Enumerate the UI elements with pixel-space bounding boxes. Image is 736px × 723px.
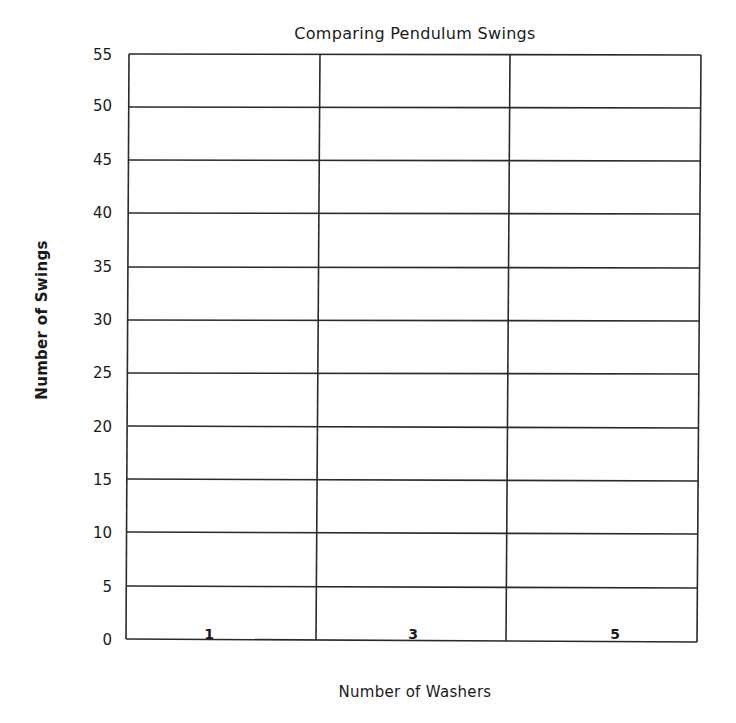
ytick-label: 40 — [72, 204, 112, 222]
ytick-label: 35 — [72, 258, 112, 276]
divider-2 — [506, 55, 510, 641]
gridline-35 — [128, 267, 700, 268]
ytick-label: 50 — [72, 97, 112, 115]
ytick-label: 30 — [72, 311, 112, 329]
gridline-20 — [128, 426, 699, 428]
divider-1 — [316, 54, 320, 640]
gridline-5 — [127, 586, 698, 588]
gridline-25 — [128, 373, 699, 374]
ytick-label: 45 — [72, 151, 112, 169]
ytick-label: 20 — [72, 418, 112, 436]
y-axis — [126, 54, 129, 639]
gridline-30 — [128, 320, 700, 321]
gridline-40 — [129, 213, 700, 214]
grid-lines — [126, 54, 701, 642]
gridline-45 — [129, 160, 700, 161]
ytick-label: 15 — [72, 471, 112, 489]
y-axis-label: Number of Swings — [33, 240, 51, 399]
x-axis-label: Number of Washers — [129, 683, 701, 701]
ytick-label: 55 — [72, 46, 112, 64]
ytick-label: 25 — [72, 364, 112, 382]
gridline-15 — [127, 479, 699, 481]
xtick-label: 5 — [595, 626, 635, 642]
gridline-50 — [129, 107, 701, 108]
ytick-label: 5 — [72, 578, 112, 596]
right-border — [697, 55, 701, 642]
xtick-label: 1 — [189, 626, 229, 642]
gridline-10 — [127, 532, 698, 534]
gridline-55 — [129, 54, 701, 55]
xtick-label: 3 — [393, 626, 433, 642]
ytick-label: 0 — [72, 631, 112, 649]
ytick-label: 10 — [72, 524, 112, 542]
